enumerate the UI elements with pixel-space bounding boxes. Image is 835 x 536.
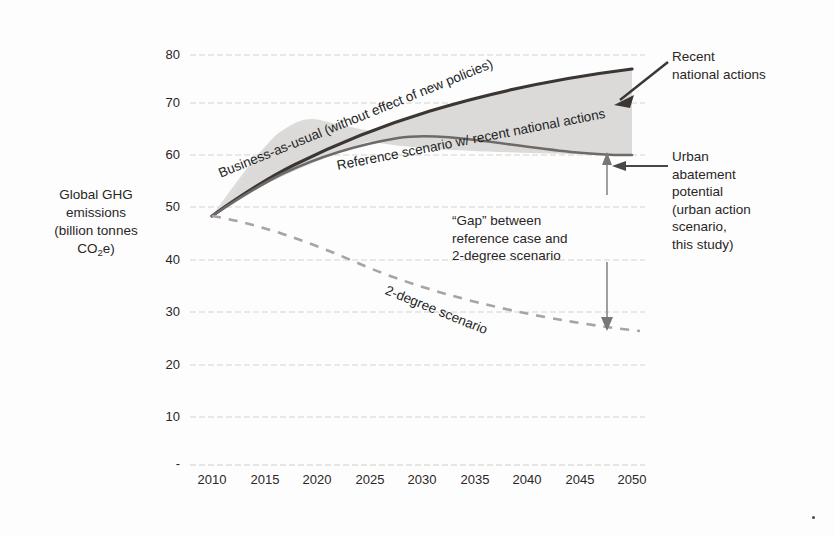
annotation-gap-line-1: “Gap” between — [452, 212, 602, 230]
annotation-urban-line-1: Urban — [672, 148, 822, 166]
x-tick-2045: 2045 — [554, 472, 606, 487]
annotation-urban-line-4: (urban action — [672, 201, 822, 219]
y-axis-title-line-2: emissions — [30, 204, 162, 222]
co2-suffix: e) — [103, 241, 115, 256]
annotation-urban-line-2: abatement — [672, 166, 822, 184]
y-axis-title-line-1: Global GHG — [30, 186, 162, 204]
co2-subscript: 2 — [97, 247, 102, 258]
x-tick-2050: 2050 — [606, 472, 658, 487]
annotation-urban-line-6: this study) — [672, 236, 822, 254]
y-axis-title-line-4: CO2e) — [30, 240, 162, 259]
gap-arrow — [601, 152, 613, 331]
x-tick-2020: 2020 — [291, 472, 343, 487]
y-tick-0: - — [146, 456, 180, 471]
annotation-urban-line-5: scenario, — [672, 218, 822, 236]
y-tick-70: 70 — [146, 95, 180, 110]
y-tick-40: 40 — [146, 252, 180, 267]
y-tick-80: 80 — [146, 47, 180, 62]
x-tick-2035: 2035 — [449, 472, 501, 487]
chart-figure: Global GHG emissions (billion tonnes CO2… — [0, 0, 835, 536]
y-tick-10: 10 — [146, 409, 180, 424]
x-tick-2010: 2010 — [186, 472, 238, 487]
x-tick-2030: 2030 — [396, 472, 448, 487]
x-tick-2015: 2015 — [239, 472, 291, 487]
annotation-gap-line-3: 2-degree scenario — [452, 247, 602, 265]
annotation-recent-line-1: Recent — [672, 48, 822, 66]
page-artifact-dot — [812, 516, 815, 519]
x-tick-2025: 2025 — [344, 472, 396, 487]
urban-abatement-arrow — [612, 161, 668, 171]
y-tick-50: 50 — [146, 199, 180, 214]
annotation-urban-abatement-potential: Urban abatement potential (urban action … — [672, 148, 822, 253]
annotation-recent-line-2: national actions — [672, 66, 822, 84]
y-tick-30: 30 — [146, 304, 180, 319]
annotation-gap-line-2: reference case and — [452, 230, 602, 248]
y-tick-60: 60 — [146, 147, 180, 162]
y-axis-title-line-3: (billion tonnes — [30, 222, 162, 240]
annotation-urban-line-3: potential — [672, 183, 822, 201]
x-tick-2040: 2040 — [501, 472, 553, 487]
co2-label: CO — [77, 241, 97, 256]
y-axis-title: Global GHG emissions (billion tonnes CO2… — [30, 186, 162, 259]
annotation-recent-national-actions: Recent national actions — [672, 48, 822, 83]
y-tick-20: 20 — [146, 357, 180, 372]
annotation-gap: “Gap” between reference case and 2-degre… — [452, 212, 602, 265]
